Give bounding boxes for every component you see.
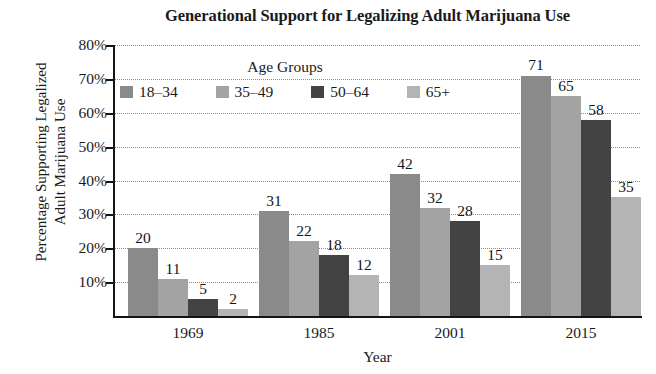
x-axis-line [113, 316, 642, 318]
y-axis-title-line-1: Percentage Supporting Legalized [32, 12, 51, 312]
chart-title: Generational Support for Legalizing Adul… [85, 6, 650, 26]
bar-value-label: 71 [512, 57, 560, 72]
bar-value-label: 65 [542, 78, 590, 93]
legend-swatch-icon [407, 86, 420, 98]
x-axis-tick-label: 2015 [541, 324, 621, 342]
legend-items: 18–3435–4950–6465+ [120, 84, 450, 99]
bar [349, 275, 379, 316]
y-axis-tick-label: 80% [55, 37, 107, 52]
y-axis-tick [106, 181, 113, 183]
y-axis-tick [106, 282, 113, 284]
y-axis-tick-label: 20% [55, 240, 107, 255]
bar-value-label: 31 [250, 193, 298, 208]
y-axis-tick-label: 60% [55, 105, 107, 120]
y-axis-tick [106, 79, 113, 81]
bar [128, 248, 158, 316]
x-axis-title: Year [113, 348, 642, 366]
bar-value-label: 58 [572, 102, 620, 117]
x-axis-tick-label: 1985 [279, 324, 359, 342]
y-axis-tick-label: 50% [55, 139, 107, 154]
legend-title: Age Groups [120, 58, 450, 76]
legend-label: 35–49 [235, 84, 274, 99]
bar [420, 208, 450, 316]
bar [480, 265, 510, 316]
y-axis-tick-label: 70% [55, 71, 107, 86]
legend-item[interactable]: 65+ [407, 84, 450, 99]
y-axis-tick [106, 214, 113, 216]
bar [611, 197, 641, 316]
y-axis-tick [106, 113, 113, 115]
bar-value-label: 20 [119, 230, 167, 245]
gridline [113, 45, 640, 46]
bar-value-label: 28 [441, 203, 489, 218]
y-axis-tick-label: 10% [55, 274, 107, 289]
legend-item[interactable]: 18–34 [120, 84, 178, 99]
bar-value-label: 18 [310, 237, 358, 252]
bar-value-label: 12 [340, 257, 388, 272]
bar-value-label: 15 [471, 247, 519, 262]
legend-swatch-icon [216, 86, 229, 98]
bar-chart: Generational Support for Legalizing Adul… [0, 0, 656, 374]
y-axis-tick-label: 40% [55, 173, 107, 188]
y-axis-tick [106, 147, 113, 149]
bar-value-label: 11 [149, 261, 197, 276]
legend-label: 50–64 [330, 84, 369, 99]
legend-label: 18–34 [139, 84, 178, 99]
bar-value-label: 35 [602, 179, 650, 194]
bar [450, 221, 480, 316]
bar [289, 241, 319, 316]
bar [218, 309, 248, 316]
legend-label: 65+ [426, 84, 450, 99]
legend-swatch-icon [120, 86, 133, 98]
legend: Age Groups 18–3435–4950–6465+ [120, 58, 450, 106]
legend-item[interactable]: 50–64 [311, 84, 369, 99]
x-axis-tick-label: 2001 [410, 324, 490, 342]
legend-swatch-icon [311, 86, 324, 98]
legend-item[interactable]: 35–49 [216, 84, 274, 99]
y-axis-line [113, 45, 115, 318]
bar-value-label: 42 [381, 156, 429, 171]
x-axis-tick-label: 1969 [148, 324, 228, 342]
y-axis-tick [106, 248, 113, 250]
bar [581, 120, 611, 316]
bar [521, 76, 551, 317]
y-axis-tick-labels: 80%70%60%50%40%30%20%10% [55, 45, 107, 316]
y-axis-tick-label: 30% [55, 206, 107, 221]
bar-value-label: 2 [209, 291, 257, 306]
bar [551, 96, 581, 316]
y-axis-tick [106, 45, 113, 47]
